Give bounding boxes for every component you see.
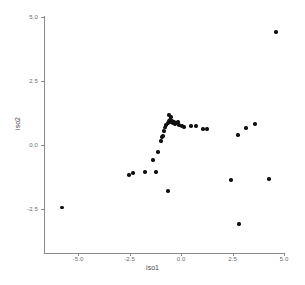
x-axis-title: iso1 bbox=[0, 264, 305, 271]
data-point bbox=[143, 170, 146, 173]
data-point bbox=[161, 134, 164, 137]
data-point bbox=[253, 122, 256, 125]
data-point bbox=[60, 206, 63, 209]
data-point bbox=[244, 126, 247, 129]
data-point bbox=[154, 170, 157, 173]
data-point bbox=[131, 171, 134, 174]
data-point bbox=[189, 124, 192, 127]
data-point bbox=[194, 124, 197, 127]
data-point bbox=[169, 115, 172, 118]
data-point bbox=[166, 189, 169, 192]
data-point bbox=[151, 158, 154, 161]
data-point bbox=[127, 173, 130, 176]
data-point bbox=[201, 127, 204, 130]
data-point bbox=[229, 178, 232, 181]
data-point bbox=[162, 129, 165, 132]
y-axis-title: iso2 bbox=[14, 104, 21, 144]
data-point bbox=[156, 150, 159, 153]
data-points-layer bbox=[0, 0, 305, 285]
data-point bbox=[159, 139, 162, 142]
data-point bbox=[236, 133, 239, 136]
data-point bbox=[205, 127, 208, 130]
scatter-plot: -2.50.02.55.0 -5.0-2.50.02.55.0 iso1 iso… bbox=[0, 0, 305, 285]
data-point bbox=[274, 30, 277, 33]
data-point bbox=[267, 177, 270, 180]
data-point bbox=[237, 222, 240, 225]
data-point bbox=[182, 125, 185, 128]
